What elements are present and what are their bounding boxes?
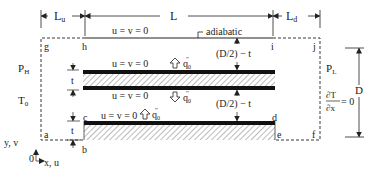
corner-h: h bbox=[82, 41, 87, 52]
corner-f: f bbox=[312, 129, 316, 140]
svg-text:= 0: = 0 bbox=[341, 96, 354, 107]
corner-j: j bbox=[312, 41, 316, 52]
heat-flux-down-arrow-icon bbox=[170, 92, 180, 102]
heat-flux-base-arrow-icon bbox=[140, 109, 150, 119]
dimension-lu: Lu bbox=[41, 9, 85, 36]
corner-i: i bbox=[271, 41, 274, 52]
bottom-plate bbox=[84, 121, 275, 140]
svg-text:∂T: ∂T bbox=[326, 90, 336, 100]
plate-top-bc: u = v = 0 bbox=[112, 58, 148, 69]
adiabatic-leader bbox=[198, 32, 203, 38]
heat-flux-top: q0″ bbox=[183, 55, 191, 70]
dimension-d: D bbox=[345, 48, 364, 137]
channel-flow-diagram: Lu L Ld u = v = 0 adiabatic g h i j a b … bbox=[0, 0, 376, 172]
dimension-ld: Ld bbox=[273, 9, 320, 36]
svg-text:(D/2) − t: (D/2) − t bbox=[216, 98, 251, 110]
svg-text:t: t bbox=[71, 75, 74, 86]
adiabatic-label: adiabatic bbox=[206, 26, 243, 37]
thickness-marker-bottom: t bbox=[67, 112, 80, 148]
top-wall-bc: u = v = 0 bbox=[112, 25, 148, 36]
coordinate-axes: y, v 0 x, u bbox=[4, 137, 59, 168]
origin-label: 0 bbox=[29, 153, 34, 164]
corner-g: g bbox=[44, 41, 49, 52]
heat-flux-up-arrow-icon bbox=[170, 58, 180, 68]
inlet-temperature: T0 bbox=[18, 94, 29, 108]
outlet-pressure: PL bbox=[326, 62, 336, 76]
dimension-l: L bbox=[86, 9, 273, 23]
d-label: D bbox=[355, 84, 363, 96]
lu-label: Lu bbox=[54, 9, 65, 24]
corner-b: b bbox=[82, 144, 87, 155]
svg-text:(D/2) − t: (D/2) − t bbox=[216, 48, 251, 60]
plate-bottom-bc: u = v = 0 bbox=[112, 90, 148, 101]
x-axis-label: x, u bbox=[44, 157, 59, 168]
y-axis-label: y, v bbox=[4, 137, 18, 148]
thickness-marker-middle: t bbox=[67, 63, 79, 97]
base-top-bc: u = v = 0 bbox=[101, 110, 137, 121]
outlet-gradient-condition: ∂T ∂x = 0 bbox=[326, 90, 354, 113]
corner-a: a bbox=[44, 129, 49, 140]
gap-marker-upper: (D/2) − t bbox=[216, 39, 251, 70]
ld-label: Ld bbox=[286, 9, 297, 24]
svg-text:t: t bbox=[71, 125, 74, 136]
corner-e: e bbox=[277, 129, 282, 140]
heat-flux-bottom: q0″ bbox=[183, 89, 191, 104]
l-label: L bbox=[170, 9, 177, 23]
gap-marker-lower: (D/2) − t bbox=[216, 91, 251, 121]
inlet-pressure: PH bbox=[18, 62, 29, 76]
svg-text:∂x: ∂x bbox=[326, 103, 335, 113]
middle-plate bbox=[83, 70, 275, 90]
heat-flux-base: q0″ bbox=[152, 106, 160, 121]
